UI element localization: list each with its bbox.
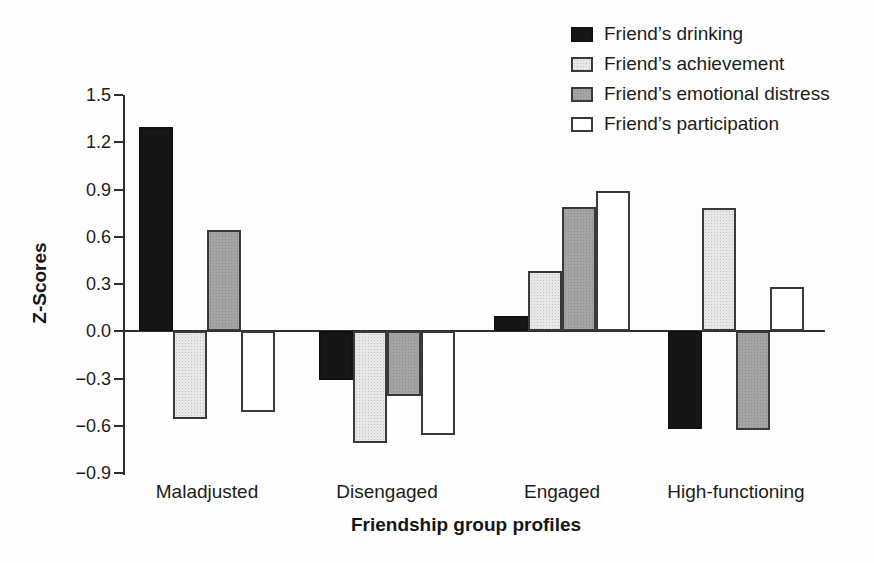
legend-label: Friend’s achievement — [604, 53, 784, 75]
bar-maladjusted-friend-s-drinking — [139, 127, 173, 332]
bar-engaged-friend-s-participation — [596, 191, 630, 331]
y-axis-tick — [114, 472, 123, 474]
legend-item-friend-s-drinking: Friend’s drinking — [571, 19, 830, 49]
legend-swatch-icon — [571, 27, 593, 42]
bar-high-functioning-friend-s-drinking — [668, 331, 702, 429]
legend-item-friend-s-achievement: Friend’s achievement — [571, 49, 830, 79]
y-axis-tick — [114, 425, 123, 427]
bar-high-functioning-friend-s-emotional-distress — [736, 331, 770, 430]
y-tick-label: 1.2 — [59, 132, 111, 152]
y-axis-tick — [114, 94, 123, 96]
y-tick-label: −0.3 — [59, 369, 111, 389]
y-tick-label: 0.9 — [59, 180, 111, 200]
y-axis-tick — [114, 330, 123, 332]
bar-maladjusted-friend-s-participation — [241, 331, 275, 411]
y-axis-tick — [114, 141, 123, 143]
legend-swatch-icon — [571, 57, 593, 72]
y-axis-line — [123, 95, 125, 475]
x-category-label-maladjusted: Maladjusted — [156, 481, 258, 503]
bar-maladjusted-friend-s-emotional-distress — [207, 230, 241, 331]
bar-high-functioning-friend-s-participation — [770, 287, 804, 331]
y-tick-label: 0.0 — [59, 321, 111, 341]
x-category-label-engaged: Engaged — [524, 481, 600, 503]
bar-engaged-friend-s-emotional-distress — [562, 207, 596, 331]
bar-engaged-friend-s-drinking — [494, 316, 528, 332]
y-axis-tick — [114, 283, 123, 285]
plot-area: 1.51.20.90.60.30.0−0.3−0.6−0.9Maladjuste… — [123, 95, 825, 473]
y-tick-label: −0.9 — [59, 463, 111, 483]
y-tick-label: −0.6 — [59, 416, 111, 436]
bar-disengaged-friend-s-participation — [421, 331, 455, 435]
bar-maladjusted-friend-s-achievement — [173, 331, 207, 419]
x-category-label-high-functioning: High-functioning — [667, 481, 804, 503]
x-axis-title: Friendship group profiles — [351, 514, 581, 536]
bar-disengaged-friend-s-achievement — [353, 331, 387, 443]
y-axis-tick — [114, 378, 123, 380]
bar-disengaged-friend-s-emotional-distress — [387, 331, 421, 396]
y-axis-tick — [114, 236, 123, 238]
bar-chart-figure: Friend’s drinkingFriend’s achievementFri… — [0, 0, 874, 563]
y-axis-tick — [114, 189, 123, 191]
bar-engaged-friend-s-achievement — [528, 271, 562, 331]
y-tick-label: 0.6 — [59, 227, 111, 247]
x-category-label-disengaged: Disengaged — [336, 481, 437, 503]
y-tick-label: 1.5 — [59, 85, 111, 105]
bar-disengaged-friend-s-drinking — [319, 331, 353, 380]
y-axis-title: Z-Scores — [29, 242, 51, 323]
bar-high-functioning-friend-s-achievement — [702, 208, 736, 331]
legend-label: Friend’s drinking — [604, 23, 743, 45]
y-tick-label: 0.3 — [59, 274, 111, 294]
